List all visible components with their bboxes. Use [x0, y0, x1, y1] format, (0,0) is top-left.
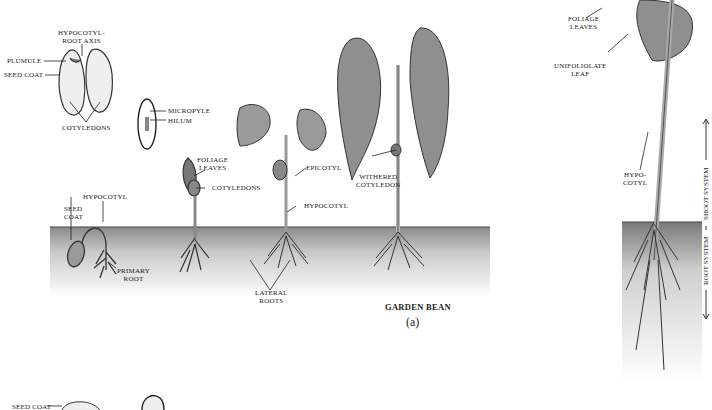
label-primary-root: PRIMARY ROOT — [117, 267, 150, 283]
label-seed-coat-partial: SEED COAT — [12, 403, 51, 410]
label-withered-cotyledon: WITHERED COTYLEDON — [356, 173, 401, 189]
label-line: HYPOCOTYL- — [58, 29, 105, 37]
label-line: WITHERED — [356, 173, 401, 181]
label-hilum: HILUM — [168, 117, 192, 125]
label-line: FOLIAGE — [568, 15, 599, 23]
label-line: LEAF — [554, 70, 607, 78]
label-hypocotyl-mature: HYPO- COTYL — [623, 171, 647, 187]
label-line: ROOT AXIS — [58, 37, 105, 45]
label-foliage-leaves-mature: FOLIAGE LEAVES — [568, 15, 599, 31]
label-root-system: ROOT SYSTEM — [702, 237, 710, 285]
label-unifoliolate-leaf: UNIFOLIOLATE LEAF — [554, 62, 607, 78]
label-line: COAT — [64, 213, 83, 221]
label-seed-coat-seedling: SEED COAT — [64, 205, 83, 221]
label-hypocotyl-seedling-3: HYPOCOTYL — [304, 202, 348, 210]
label-line: ROOT — [117, 275, 150, 283]
panel-label: (a) — [406, 315, 419, 330]
label-line: COTYLEDON — [356, 181, 401, 189]
label-lateral-roots: LATERAL ROOTS — [255, 289, 288, 305]
label-line: LATERAL — [255, 289, 288, 297]
label-line: PRIMARY — [117, 267, 150, 275]
label-seed-coat: SEED COAT — [4, 71, 43, 79]
label-line: HYPO- — [623, 171, 647, 179]
label-cotyledons: COTYLEDONS — [62, 124, 111, 132]
soil-band — [50, 227, 490, 297]
label-micropyle: MICROPYLE — [168, 107, 210, 115]
label-line: UNIFOLIOLATE — [554, 62, 607, 70]
label-cotyledons-seedling: COTYLEDONS — [212, 184, 261, 192]
label-line: SEED — [64, 205, 83, 213]
label-hypocotyl-root-axis: HYPOCOTYL- ROOT AXIS — [58, 29, 105, 45]
label-foliage-leaves: FOLIAGE LEAVES — [197, 156, 228, 172]
label-plumule: PLUMULE — [7, 57, 41, 65]
open-seed-illustration — [59, 49, 112, 115]
label-line: LEAVES — [568, 23, 599, 31]
label-hypocotyl-seedling-1: HYPOCOTYL — [83, 193, 127, 201]
label-line: ROOTS — [255, 297, 288, 305]
label-line: COTYL — [623, 179, 647, 187]
seed-side-illustration — [138, 99, 156, 149]
label-epicotyl: EPICOTYL — [306, 164, 341, 172]
label-shoot-system: SHOOT SYSTEM — [702, 167, 710, 220]
label-line: FOLIAGE — [197, 156, 228, 164]
figure-title: GARDEN BEAN — [385, 302, 451, 312]
label-line: LEAVES — [197, 164, 228, 172]
